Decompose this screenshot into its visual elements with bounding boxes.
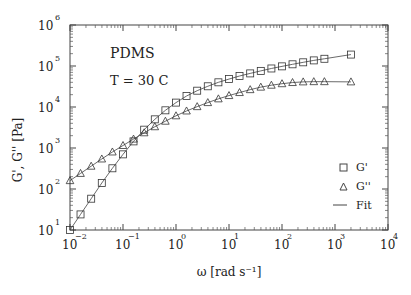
y-axis-label: G', G'' [Pa] bbox=[11, 118, 25, 183]
gdoubleprime-marker bbox=[204, 99, 212, 106]
y-tick-label: 10 bbox=[38, 19, 53, 33]
y-tick-label: 10 bbox=[38, 224, 53, 238]
legend-label-gprime: G' bbox=[356, 161, 368, 174]
gdoubleprime-marker bbox=[347, 78, 355, 85]
svg-text:2: 2 bbox=[287, 232, 292, 241]
svg-text:−1: −1 bbox=[128, 232, 140, 241]
legend-triangle-icon bbox=[340, 183, 347, 190]
svg-text:−2: −2 bbox=[75, 232, 87, 241]
x-tick-labels: 10−210−1100101102103104 bbox=[62, 232, 398, 252]
svg-text:0: 0 bbox=[181, 232, 186, 241]
svg-text:5: 5 bbox=[55, 54, 60, 63]
svg-text:4: 4 bbox=[393, 232, 398, 241]
legend: G' G'' Fit bbox=[333, 161, 372, 212]
y-tick-label: 10 bbox=[38, 101, 53, 115]
x-axis-label: ω [rad s⁻¹] bbox=[197, 265, 262, 279]
svg-text:1: 1 bbox=[55, 218, 60, 227]
gdoubleprime-marker bbox=[193, 103, 201, 110]
fit-line bbox=[70, 82, 351, 181]
gdoubleprime-marker bbox=[310, 78, 318, 85]
legend-label-fit: Fit bbox=[356, 199, 372, 212]
svg-text:6: 6 bbox=[55, 13, 60, 22]
y-tick-label: 10 bbox=[38, 142, 53, 156]
svg-text:4: 4 bbox=[55, 95, 60, 104]
svg-text:3: 3 bbox=[340, 232, 345, 241]
svg-text:3: 3 bbox=[55, 136, 60, 145]
annotation-material: PDMS bbox=[110, 45, 155, 61]
y-tick-label: 10 bbox=[38, 60, 53, 74]
annotation-temperature: T = 30 C bbox=[110, 73, 169, 88]
y-tick-labels: 101102103104105106 bbox=[38, 13, 60, 238]
y-tick-label: 10 bbox=[38, 183, 53, 197]
gdoubleprime-marker bbox=[183, 107, 191, 114]
legend-label-gdoubleprime: G'' bbox=[356, 180, 371, 193]
legend-square-icon bbox=[340, 164, 347, 171]
gdoubleprime-marker bbox=[321, 78, 329, 85]
gdoubleprime-marker bbox=[162, 117, 170, 124]
chart: 10−210−1100101102103104 1011021031041051… bbox=[0, 0, 411, 295]
gdoubleprime-marker bbox=[299, 78, 307, 85]
svg-text:1: 1 bbox=[234, 232, 239, 241]
gdoubleprime-marker bbox=[172, 112, 180, 119]
svg-text:2: 2 bbox=[55, 177, 60, 186]
